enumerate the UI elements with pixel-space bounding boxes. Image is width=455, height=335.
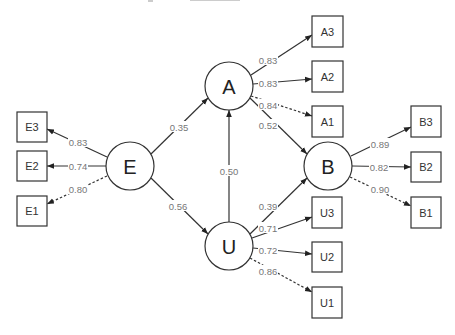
coef-b-b1: 0.90	[371, 184, 390, 195]
latent-node-e: E	[106, 142, 154, 190]
coef-e-u: 0.56	[169, 201, 188, 212]
latent-label-e: E	[123, 156, 136, 178]
observed-label-a2: A2	[321, 71, 334, 83]
observed-node-a1: A1	[312, 106, 343, 137]
latent-label-u: U	[222, 236, 236, 258]
observed-node-u2: U2	[312, 242, 342, 272]
observed-node-u3: U3	[312, 197, 342, 228]
coef-u-a: 0.50	[220, 166, 239, 177]
latent-node-u: U	[205, 222, 253, 270]
observed-label-e3: E3	[25, 121, 38, 133]
coef-b-b2: 0.82	[370, 162, 389, 173]
observed-label-u3: U3	[320, 207, 334, 219]
latent-label-b: B	[321, 156, 334, 178]
coef-u-u1: 0.86	[259, 266, 278, 277]
observed-node-u1: U1	[312, 287, 342, 318]
coef-u-b: 0.39	[259, 201, 278, 212]
sem-diagram: 0.35 0.56 0.50 0.52 0.39 0.83 0.83 0.84 …	[0, 0, 455, 335]
observed-label-b1: B1	[419, 207, 432, 219]
observed-node-b1: B1	[411, 197, 441, 228]
observed-label-e1: E1	[25, 205, 38, 217]
coef-b-b3: 0.89	[371, 139, 390, 150]
observed-node-e1: E1	[17, 196, 47, 226]
coef-a-b: 0.52	[259, 120, 278, 131]
observed-label-b2: B2	[419, 161, 432, 173]
observed-label-a1: A1	[321, 116, 334, 128]
observed-node-a2: A2	[312, 61, 343, 92]
observed-node-e2: E2	[17, 151, 47, 181]
coef-a-a2: 0.83	[259, 78, 278, 89]
latent-node-b: B	[304, 142, 352, 190]
observed-label-e2: E2	[25, 160, 38, 172]
observed-node-e3: E3	[17, 112, 47, 142]
coef-a-a3: 0.83	[259, 55, 278, 66]
coef-e-a: 0.35	[170, 122, 189, 133]
coef-a-a1: 0.84	[259, 100, 278, 111]
coef-e-e3: 0.83	[69, 137, 88, 148]
latent-label-a: A	[222, 76, 236, 98]
observed-label-u2: U2	[320, 251, 334, 263]
coef-e-e1: 0.80	[69, 184, 88, 195]
coef-u-u2: 0.72	[259, 245, 278, 256]
latent-node-a: A	[205, 62, 253, 110]
cropped-title-remnant	[148, 0, 240, 2]
coef-u-u3: 0.71	[259, 223, 278, 234]
observed-node-b3: B3	[411, 106, 441, 137]
observed-label-u1: U1	[320, 297, 334, 309]
observed-label-b3: B3	[419, 116, 432, 128]
observed-node-a3: A3	[312, 16, 343, 47]
observed-label-a3: A3	[321, 26, 334, 38]
coef-e-e2: 0.74	[69, 161, 88, 172]
observed-node-b2: B2	[411, 152, 441, 182]
